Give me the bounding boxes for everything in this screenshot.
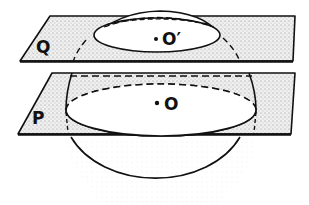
center-o-dot (155, 101, 159, 105)
great-circle (66, 84, 256, 136)
plane-q-label: Q (36, 37, 50, 57)
center-o-prime-dot (154, 37, 158, 41)
plane-p-label: P (32, 108, 44, 128)
sphere-planes-diagram: Q P O′ O (0, 0, 309, 205)
center-o-prime-label: O′ (162, 29, 181, 49)
center-o-label: O (164, 94, 178, 114)
small-circle (94, 18, 220, 53)
sphere-shading (66, 140, 256, 205)
